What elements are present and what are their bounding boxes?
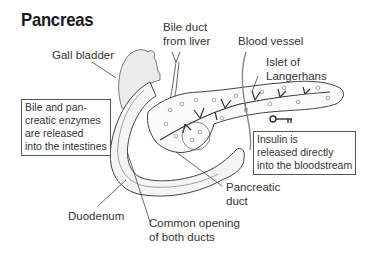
label-duodenum: Duodenum — [68, 209, 124, 223]
endocrine-line-2: released directly — [257, 146, 352, 159]
label-pancreatic-duct: Pancreatic duct — [226, 180, 280, 208]
label-gall-bladder-text: Gall bladder — [52, 49, 114, 61]
label-islet-line1: Islet of — [266, 55, 327, 69]
exocrine-line-1: Bile and pan- — [25, 101, 107, 114]
endocrine-info-box: Insulin is released directly into the bl… — [253, 131, 356, 175]
label-gall-bladder: Gall bladder — [52, 48, 114, 62]
exocrine-line-3: are released — [25, 127, 107, 140]
label-islet-line2: Langerhans — [266, 69, 327, 83]
endocrine-line-3: into the bloodstream — [257, 159, 352, 172]
label-bile-duct: Bile duct from liver — [163, 20, 210, 48]
exocrine-info-box: Bile and pan- creatic enzymes are releas… — [21, 99, 111, 156]
label-blood-vessel: Blood vessel — [238, 34, 303, 48]
exocrine-line-2: creatic enzymes — [25, 114, 107, 127]
label-bile-duct-line1: Bile duct — [163, 20, 210, 34]
label-bile-duct-line2: from liver — [163, 34, 210, 48]
label-duodenum-text: Duodenum — [68, 210, 124, 222]
diagram-title: Pancreas — [21, 9, 93, 31]
label-pancreatic-duct-line1: Pancreatic — [226, 180, 280, 194]
label-pancreatic-duct-line2: duct — [226, 194, 280, 208]
label-common-opening-line1: Common opening — [149, 216, 240, 230]
endocrine-line-1: Insulin is — [257, 133, 352, 146]
exocrine-line-4: into the intestines — [25, 140, 107, 153]
label-islet: Islet of Langerhans — [266, 55, 327, 83]
label-common-opening: Common opening of both ducts — [149, 216, 240, 244]
label-blood-vessel-text: Blood vessel — [238, 35, 303, 47]
label-common-opening-line2: of both ducts — [149, 230, 240, 244]
key-icon — [270, 116, 292, 123]
